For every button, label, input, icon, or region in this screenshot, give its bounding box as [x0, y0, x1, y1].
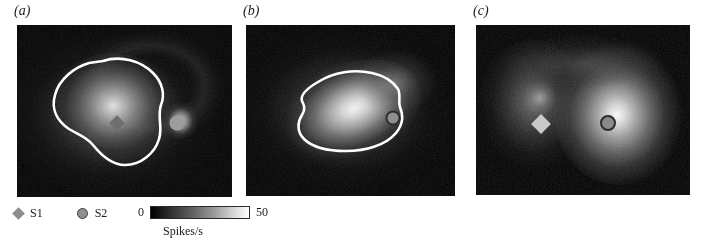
hotspot-s2-a [163, 102, 197, 140]
contour-outline-b [246, 25, 455, 196]
texture-noise-c [476, 25, 690, 195]
hotspot-s2-c [553, 39, 686, 185]
marker-s2-a [170, 116, 185, 131]
upper-ridge-c [497, 28, 664, 86]
legend: S1 S2 [14, 206, 107, 221]
halo-b [246, 25, 455, 196]
texture-noise-a [17, 25, 232, 197]
marker-s2-b [386, 111, 401, 126]
legend-label-s2: S2 [95, 206, 108, 221]
activity-map-c [476, 25, 690, 195]
panel-label-a: (a) [14, 3, 30, 19]
texture-noise-b [246, 25, 455, 196]
legend-item-s2: S2 [77, 206, 108, 221]
panel-label-c: (c) [473, 3, 489, 19]
colorbar-group: 0 50 [138, 205, 268, 220]
colorbar-caption: Spikes/s [163, 224, 203, 239]
hotspot-s1-core-c [523, 81, 557, 115]
colorbar-max-label: 50 [256, 205, 268, 220]
diffuse-ring-a [73, 28, 228, 145]
marker-s1-c [531, 115, 551, 135]
hotspot-secondary-b [355, 49, 439, 114]
activity-map-b [246, 25, 455, 196]
legend-label-s1: S1 [30, 206, 43, 221]
hotspot-s1-c [476, 39, 587, 175]
marker-s2-c [600, 115, 616, 131]
colorbar-gradient [150, 206, 250, 219]
panel-label-b: (b) [243, 3, 259, 19]
halo-a [17, 25, 232, 197]
marker-s1-a [109, 115, 125, 131]
diamond-marker-icon [12, 207, 25, 220]
legend-item-s1: S1 [14, 206, 43, 221]
figure-panel-group: (a) (b) [0, 0, 701, 252]
contour-outline-a [17, 25, 232, 197]
circle-marker-icon [77, 208, 88, 219]
hotspot-s1-a [47, 53, 180, 173]
hotspot-core-b [267, 39, 439, 183]
activity-map-a [17, 25, 232, 197]
colorbar-min-label: 0 [138, 205, 144, 220]
